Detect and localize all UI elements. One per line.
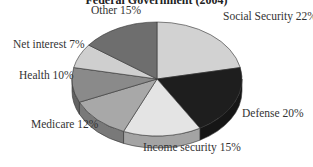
slice-label-other: Other 15% — [91, 4, 141, 16]
slice-label-social-security: Social Security 22% — [223, 10, 313, 22]
slice-label-health: Health 10% — [19, 69, 74, 81]
slice-label-medicare: Medicare 12% — [31, 118, 98, 130]
slice-label-income-security: Income security 15% — [143, 141, 241, 153]
slice-label-net-interest: Net interest 7% — [13, 38, 85, 50]
slice-label-defense: Defense 20% — [242, 107, 304, 119]
